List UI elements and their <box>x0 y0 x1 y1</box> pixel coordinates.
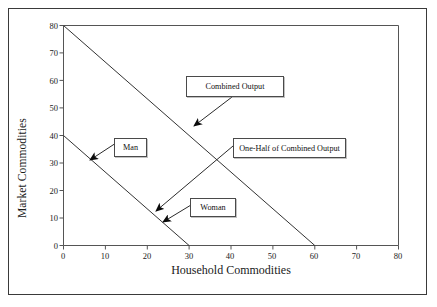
y-axis-ticks <box>60 26 64 246</box>
x-axis-ticks <box>64 246 399 250</box>
annotation-arrow-man <box>90 143 116 160</box>
callout-combined-output[interactable]: Combined Output <box>186 76 284 97</box>
annotation-arrow-woman <box>163 205 191 222</box>
callout-woman[interactable]: Woman <box>190 198 236 217</box>
figure-container: Market Commodities Household Commodities… <box>0 0 437 307</box>
annotation-arrow-combined-output <box>194 97 232 126</box>
callout-one-half-combined-output[interactable]: One-Half of Combined Output <box>233 138 346 158</box>
plot-area <box>0 0 437 307</box>
callout-man[interactable]: Man <box>114 138 147 157</box>
